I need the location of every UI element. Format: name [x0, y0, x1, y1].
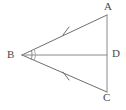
vertex-label-c: C [103, 92, 110, 103]
tick-on-BC-icon [63, 72, 69, 80]
geometry-figure: A B C D [0, 0, 126, 110]
angle-arc-DBC-icon [31, 55, 32, 59]
vertex-label-b: B [7, 49, 14, 60]
angle-arc-ABD-icon [31, 51, 32, 55]
vertex-label-a: A [104, 1, 112, 12]
vertex-label-d: D [112, 48, 120, 59]
segment-BA [22, 15, 107, 55]
